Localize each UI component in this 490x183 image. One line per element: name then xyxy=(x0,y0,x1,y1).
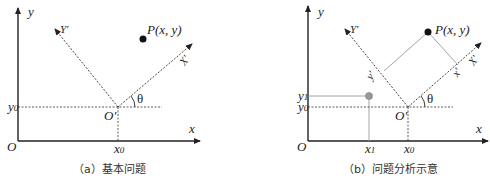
diagram-a xyxy=(0,0,245,183)
theta-arc xyxy=(421,96,425,107)
y-prime-axis xyxy=(55,29,118,107)
y0-label: y0 xyxy=(298,100,308,113)
origin-label: O xyxy=(7,140,16,153)
point-p xyxy=(425,29,432,36)
y-prime-axis xyxy=(345,29,408,107)
caption-a: （a）基本问题 xyxy=(73,160,146,176)
Y-prime-label: Y′ xyxy=(60,24,69,35)
caption-b: （b）问题分析示意 xyxy=(343,160,438,176)
Y-prime-label: Y′ xyxy=(350,24,359,35)
origin-prime-label: O′ xyxy=(395,109,407,122)
theta-label: θ xyxy=(137,92,143,105)
theta-label: θ xyxy=(427,92,433,105)
x0-label: x0 xyxy=(404,142,414,155)
point-p-label: P(x, y) xyxy=(147,23,182,36)
x0-label: x0 xyxy=(114,142,124,155)
y-axis-label: y xyxy=(28,5,34,18)
origin-label: O xyxy=(297,140,306,153)
theta-arc xyxy=(131,96,135,107)
origin-prime-label: O′ xyxy=(104,109,116,122)
point-p xyxy=(140,36,147,43)
y-axis-label: y xyxy=(318,5,324,18)
panel-problem-analysis: y x O O′ y1 y0 x1 x0 Y′ X′ y′ x′ θ P(x, … xyxy=(245,0,490,183)
x-axis-label: x xyxy=(189,122,195,135)
point-x1-y1 xyxy=(366,93,373,100)
panel-basic-problem: y x O O′ y0 x0 Y′ X′ θ P(x, y) （a）基本问题 xyxy=(0,0,245,183)
y0-label: y0 xyxy=(8,100,18,113)
x1-label: x1 xyxy=(365,142,375,155)
point-p-label: P(x, y) xyxy=(435,23,470,36)
x-axis-label: x xyxy=(476,122,482,135)
projection-to-y-prime xyxy=(384,32,428,71)
